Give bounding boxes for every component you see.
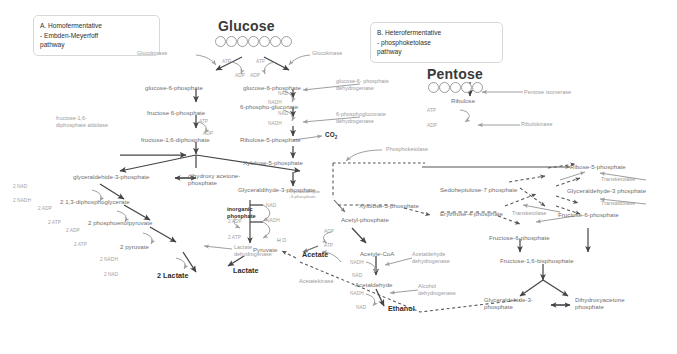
cofactor-nadh-right-2: NADH xyxy=(268,121,282,127)
panel-b-label: B. Heterofermentative - phosphoketolase … xyxy=(370,22,503,63)
cofactor-nad-ethanol: NAD xyxy=(356,305,366,311)
enzyme-aldolase: fructose-1,6- diphosphate aldolase xyxy=(56,115,108,128)
cofactor-adp-ribulokinase: ADP xyxy=(427,123,437,129)
metabolite-pyruvate-left: 2 pyruvate xyxy=(120,243,149,250)
cofactor-adp-right: ADP xyxy=(250,73,260,79)
metabolite-water: H O xyxy=(277,237,286,243)
cofactor-adp-f6p: ADP xyxy=(203,131,213,137)
metabolite-ribulose: Ribulose xyxy=(451,97,475,104)
co2-subscript: 2 xyxy=(335,135,338,140)
enzyme-alcohol-dehydrogenase: Alcohol dehydrogenase xyxy=(418,283,456,296)
enzyme-transaldolase: Transaldolase xyxy=(601,200,635,207)
pathway-diagram: A. Homofermentative - Embden-Meyerfoff p… xyxy=(0,0,677,354)
cofactor-nad-gap: 2 NAD xyxy=(13,184,27,190)
enzyme-acetaldehyde-dehydrogenase: Acetaldehyde dehydrogenase xyxy=(412,251,450,264)
co2-text: CO xyxy=(325,131,335,138)
metabolite-g6p-left: glucose-6-phosphate xyxy=(145,84,203,91)
metabolite-xylulose-5-phosphate-right: Xylulose-5-phosphate xyxy=(359,202,419,209)
cofactor-nadh-gap: 2 NADH xyxy=(13,198,31,204)
glucose-heading: Glucose xyxy=(218,18,275,35)
cofactor-nad-center: NAD xyxy=(266,203,276,209)
panel-b-text: B. Heterofermentative - phosphoketolase … xyxy=(377,29,441,55)
cofactor-atp-right: ATP xyxy=(256,59,265,65)
enzyme-phosphoketolase: Phosphoketolase xyxy=(386,146,428,153)
cofactor-atp-acetate: ATP xyxy=(324,243,333,249)
pentose-sugar-chain xyxy=(428,82,488,93)
cofactor-atp-pep: 2 ATP xyxy=(74,242,87,248)
cofactor-nad-right-2: NAD xyxy=(278,111,288,117)
cofactor-nad-right-1: NAD xyxy=(278,91,288,97)
cofactor-atp-left: ATP xyxy=(222,59,231,65)
metabolite-ribose-5-phosphate: Ribose-5-phosphate xyxy=(570,163,626,170)
cofactor-nadh-center: NADH xyxy=(266,218,280,224)
metabolite-fdp: fructose-1,6-diphosphate xyxy=(141,136,210,143)
metabolite-xylulose-5-phosphate-center: Xylulose-5-phosphate xyxy=(243,159,303,166)
metabolite-dhap-bottom: Dihydroxyacetone phosphate xyxy=(575,296,625,311)
enzyme-glucokinase-right: Glucokinase xyxy=(312,50,342,57)
cofactor-atp-ribulokinase: ATP xyxy=(427,108,436,114)
metabolite-f6p-left: fructose 6-phosphate xyxy=(147,109,205,116)
enzyme-glucokinase-left: Glucokinase xyxy=(137,50,167,57)
enzyme-6pg-dehydrogenase: 6-phosphogluconate dehydrogenase xyxy=(336,111,386,124)
metabolite-erythrose-4-phosphate: Erythrose-4-phosphate xyxy=(440,210,503,217)
metabolite-inorganic-phosphate: inorganic phosphate xyxy=(227,206,256,220)
metabolite-gap-right: Glyceraldehyde-3 phosphate xyxy=(567,187,646,194)
metabolite-g6p-right: glucose-6-phosphate xyxy=(243,84,301,91)
cofactor-adp-left: ADP xyxy=(235,73,245,79)
pentose-heading: Pentose xyxy=(427,66,483,83)
metabolite-gap-bottom: Glyceraldehide-3- phosphate xyxy=(484,296,533,311)
cofactor-atp-dpg: 2 ATP xyxy=(48,220,61,226)
metabolite-acetyl-coa: Acetyle-CoA xyxy=(360,250,394,257)
glucose-sugar-chain xyxy=(215,36,290,47)
cofactor-adp-pep: 2 ADP xyxy=(66,228,80,234)
metabolite-pep: 2 phosphoenolpyruvate xyxy=(88,219,152,226)
cofactor-atp-center: 2 ATP xyxy=(228,235,241,241)
cofactor-nadh-right-1: NADH xyxy=(268,100,282,106)
metabolite-ribulose-5-phosphate: Ribulose-5-phosphate xyxy=(240,136,301,143)
cofactor-nad-coa: NAD xyxy=(352,273,362,279)
enzyme-transketolase-bottom: Transketolase xyxy=(512,210,546,217)
cofactor-atp-f6p: ATP xyxy=(199,119,208,125)
cofactor-nad-lactate: 2 NAD xyxy=(104,272,118,278)
metabolite-lactate-center: Lactate xyxy=(233,267,259,276)
metabolite-ethanol: Ethanol xyxy=(388,305,415,314)
metabolite-dhap-left: dihydroxy aceto­ne- phosphate xyxy=(188,172,240,187)
cofactor-nadh-ethanol: NADH xyxy=(350,291,364,297)
metabolite-acetyl-phosphate: Acetyl-phosphate xyxy=(341,216,389,223)
metabolite-sedoheptulose-7-phosphate: Sedoheptulose-7 phosphate xyxy=(440,186,517,193)
metabolite-gap-left: glyceraldehide-3-phosphate xyxy=(73,173,150,180)
panel-a-text: A. Homofermentative - Embden-Meyerfoff p… xyxy=(40,22,102,48)
metabolite-lactate-left: 2 Lactate xyxy=(157,272,189,281)
metabolite-pyruvate-center: Pyruvate xyxy=(253,246,277,253)
metabolite-f6p-right-a: Fructose-6-phosphate xyxy=(558,211,619,218)
cofactor-nadh-lactate: 2 NADH xyxy=(100,257,118,263)
water-text: H O xyxy=(277,237,286,243)
enzyme-g6p-dehydrogenase: glucose-6- phosphate dehydrogenase xyxy=(336,78,389,91)
metabolite-acetate: Acetate xyxy=(302,251,328,260)
metabolite-co2: CO2 xyxy=(325,131,337,141)
cofactor-adp-acetate: ADP xyxy=(324,229,334,235)
metabolite-acetaldehyde: Acetaldehyde xyxy=(355,281,393,288)
cofactor-nadh-coa: NADH xyxy=(350,260,364,266)
enzyme-ribulokinase: Ribulokinase xyxy=(521,121,552,128)
cofactor-adp-dpg: 2 ADP xyxy=(38,206,52,212)
enzyme-acetatekinase: Acetatekinase xyxy=(299,278,334,285)
metabolite-f6p-right-b: Fructose-6-phosphate xyxy=(489,234,550,241)
cofactor-adp-center: 2 ADP xyxy=(228,219,242,225)
metabolite-fbp-right: Fructose-1,6-bisphosphate xyxy=(500,257,574,264)
metabolite-gap-center: Glyceraldihyde-3-phosphate xyxy=(238,186,316,193)
enzyme-pentose-isomerase: Pentose isomerase xyxy=(524,89,571,96)
enzyme-transketolase-top: Transketolase xyxy=(601,176,635,183)
metabolite-13dpg: 2 1,3-diphosphoglycerate xyxy=(60,198,130,205)
